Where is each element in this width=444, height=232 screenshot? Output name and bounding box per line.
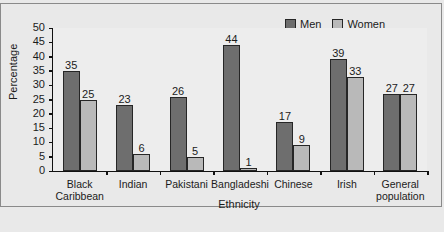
- bar-women: 5: [187, 157, 204, 171]
- bar-value-label: 44: [225, 33, 237, 45]
- x-axis-separator: [160, 171, 162, 175]
- bar-group: 2727: [374, 28, 427, 171]
- category-label: Bangladeshi: [211, 178, 269, 190]
- bar-men: 35: [63, 71, 80, 171]
- x-axis-separator: [267, 171, 269, 175]
- category-label-line: General: [376, 178, 424, 190]
- category-label: Pakistani: [165, 178, 208, 190]
- bar-value-label: 27: [386, 82, 398, 94]
- bar-men: 39: [330, 59, 347, 171]
- bar-value-label: 27: [403, 82, 415, 94]
- bar-women: 9: [293, 145, 310, 171]
- bar-men: 26: [170, 97, 187, 171]
- bar-value-label: 26: [172, 85, 184, 97]
- category-label-line: Irish: [337, 178, 357, 190]
- chart-screenshot: MenWomen Percentage 50454035302520151050…: [0, 0, 444, 232]
- y-axis-tick-label: 20: [19, 107, 45, 120]
- bar-value-label: 6: [139, 142, 145, 154]
- bar-women: 33: [347, 77, 364, 171]
- category-label-line: Indian: [119, 178, 148, 190]
- x-axis-separator: [106, 171, 108, 175]
- y-axis-tick-label: 35: [19, 64, 45, 77]
- plot-area: 50454035302520151050 3525236265441179393…: [52, 28, 427, 172]
- category-label: Irish: [337, 178, 357, 190]
- y-axis-tick-label: 50: [19, 21, 45, 34]
- category-label: Chinese: [274, 178, 313, 190]
- bar-value-label: 1: [245, 156, 251, 168]
- figure-caption: [6, 221, 206, 230]
- bar-men: 44: [223, 45, 240, 171]
- category-label-line: Chinese: [274, 178, 313, 190]
- bar-men: 17: [276, 122, 293, 171]
- category-label: Indian: [119, 178, 148, 190]
- category-label-line: Bangladeshi: [211, 178, 269, 190]
- y-axis-tick-label: 15: [19, 121, 45, 134]
- y-axis-title: Percentage: [7, 44, 19, 100]
- x-axis-title: Ethnicity: [52, 198, 426, 210]
- x-axis-separator: [213, 171, 215, 175]
- bar-value-label: 5: [192, 145, 198, 157]
- bar-value-label: 23: [119, 93, 131, 105]
- category-label-line: Pakistani: [165, 178, 208, 190]
- bar-group: 441: [213, 28, 266, 171]
- bar-men: 23: [116, 105, 133, 171]
- bars-layer: 352523626544117939332727: [53, 28, 427, 171]
- x-axis-separator: [320, 171, 322, 175]
- y-axis-tick-label: 25: [19, 93, 45, 106]
- bar-group: 3933: [320, 28, 373, 171]
- y-axis-tick-label: 40: [19, 50, 45, 63]
- bar-women: 6: [133, 154, 150, 171]
- bar-value-label: 39: [332, 47, 344, 59]
- bar-value-label: 17: [279, 110, 291, 122]
- y-axis-tick-label: 10: [19, 135, 45, 148]
- bar-group: 3525: [53, 28, 106, 171]
- bar-women: 27: [400, 94, 417, 171]
- y-axis-tick-label: 0: [19, 164, 45, 177]
- bar-value-label: 33: [349, 65, 361, 77]
- bar-men: 27: [383, 94, 400, 171]
- y-axis-tick-label: 5: [19, 150, 45, 163]
- bar-value-label: 25: [82, 88, 94, 100]
- bar-women: 25: [80, 100, 97, 172]
- y-axis-tick-label: 30: [19, 78, 45, 91]
- bar-value-label: 35: [65, 59, 77, 71]
- bar-women: 1: [240, 168, 257, 171]
- bar-group: 236: [106, 28, 159, 171]
- x-axis-separator: [374, 171, 376, 175]
- bar-group: 179: [267, 28, 320, 171]
- x-axis-separator: [427, 171, 429, 175]
- bar-value-label: 9: [299, 133, 305, 145]
- bar-group: 265: [160, 28, 213, 171]
- figure-frame: MenWomen Percentage 50454035302520151050…: [0, 3, 442, 207]
- y-axis-tick-label: 45: [19, 35, 45, 48]
- category-label-line: Black: [55, 178, 103, 190]
